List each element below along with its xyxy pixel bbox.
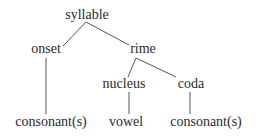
node-coda: coda bbox=[178, 77, 204, 91]
edge-syllable-rime bbox=[86, 22, 129, 45]
node-vowel: vowel bbox=[109, 115, 143, 129]
node-onset: onset bbox=[31, 42, 61, 56]
edge-rime-nucleus bbox=[128, 58, 136, 77]
node-onset-consonants: consonant(s) bbox=[15, 115, 87, 129]
node-coda-consonants: consonant(s) bbox=[170, 115, 242, 129]
node-syllable: syllable bbox=[65, 8, 109, 22]
edge-syllable-onset bbox=[63, 22, 86, 46]
syllable-structure-diagram: syllable onset rime nucleus coda consona… bbox=[0, 0, 260, 137]
edge-rime-coda bbox=[136, 58, 176, 77]
node-nucleus: nucleus bbox=[103, 77, 146, 91]
node-rime: rime bbox=[130, 42, 156, 56]
